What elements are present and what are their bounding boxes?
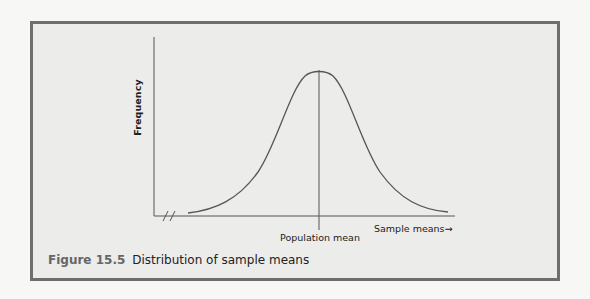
figure-number: Figure 15.5 xyxy=(48,253,125,267)
normal-curve xyxy=(188,72,448,214)
figure-caption: Figure 15.5Distribution of sample means xyxy=(48,253,309,267)
figure-title: Distribution of sample means xyxy=(132,253,309,267)
page: Frequency Population mean Sample means→ … xyxy=(0,0,590,299)
population-mean-label: Population mean xyxy=(272,232,368,243)
x-axis-label: Sample means→ xyxy=(374,223,484,234)
y-axis-label: Frequency xyxy=(132,73,143,143)
